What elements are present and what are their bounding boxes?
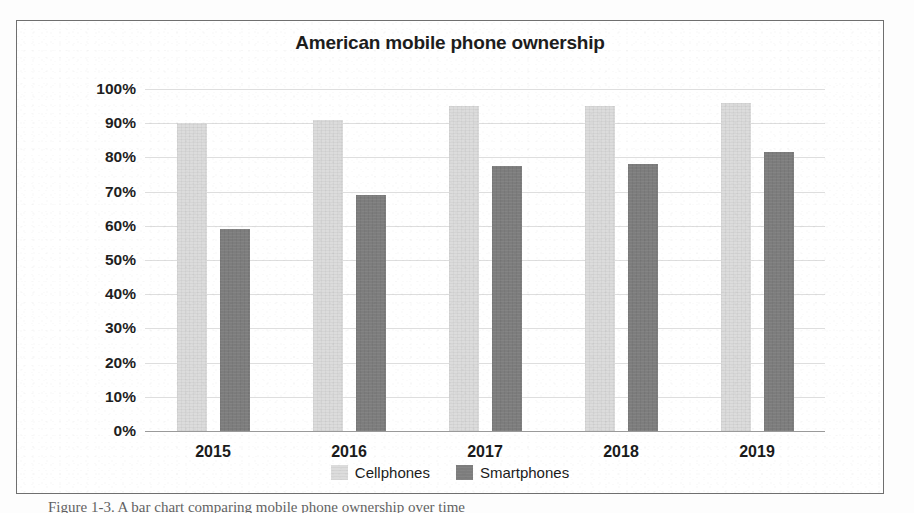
legend-label-smartphones: Smartphones [480, 464, 569, 481]
x-axis-tick-label-2019: 2019 [739, 443, 775, 461]
chart-figure-box: American mobile phone ownership 0%10%20%… [16, 20, 884, 494]
bar-group-2018: 2018 [553, 89, 689, 431]
y-axis-tick-label: 70% [105, 183, 136, 201]
bar-smartphones-2018[interactable] [628, 164, 658, 431]
chart-title: American mobile phone ownership [17, 32, 883, 54]
bar-group-2017: 2017 [417, 89, 553, 431]
bar-cellphones-2015[interactable] [177, 123, 207, 431]
legend-swatch-smartphones-icon [456, 465, 473, 480]
chart-legend: CellphonesSmartphones [17, 464, 883, 481]
y-axis-tick-label: 20% [105, 354, 136, 372]
bar-group-2019: 2019 [689, 89, 825, 431]
y-axis-tick-label: 40% [105, 285, 136, 303]
y-axis-tick-label: 100% [96, 80, 136, 98]
bar-smartphones-2015[interactable] [220, 229, 250, 431]
y-axis-tick-label: 60% [105, 217, 136, 235]
bar-cellphones-2018[interactable] [585, 106, 615, 431]
legend-swatch-cellphones-icon [331, 465, 348, 480]
x-axis-tick-label-2016: 2016 [331, 443, 367, 461]
y-axis-tick-label: 80% [105, 148, 136, 166]
bar-group-2015: 2015 [145, 89, 281, 431]
bar-smartphones-2019[interactable] [764, 152, 794, 431]
bar-group-2016: 2016 [281, 89, 417, 431]
legend-item-cellphones[interactable]: Cellphones [331, 464, 430, 481]
gridline-0pct [145, 431, 825, 432]
y-axis-tick-label: 10% [105, 388, 136, 406]
x-axis-tick-label-2018: 2018 [603, 443, 639, 461]
y-axis-tick-label: 90% [105, 114, 136, 132]
bar-smartphones-2017[interactable] [492, 166, 522, 431]
y-axis-tick-label: 30% [105, 319, 136, 337]
bar-cellphones-2017[interactable] [449, 106, 479, 431]
scanned-page: American mobile phone ownership 0%10%20%… [0, 0, 914, 513]
bar-smartphones-2016[interactable] [356, 195, 386, 431]
legend-label-cellphones: Cellphones [355, 464, 430, 481]
bar-cellphones-2019[interactable] [721, 103, 751, 431]
y-axis-tick-label: 50% [105, 251, 136, 269]
figure-caption-clipped: Figure 1-3. A bar chart comparing mobile… [48, 499, 848, 513]
plot-area: 0%10%20%30%40%50%60%70%80%90%100%2015201… [145, 89, 825, 431]
bar-cellphones-2016[interactable] [313, 120, 343, 431]
y-axis-tick-label: 0% [114, 422, 136, 440]
legend-item-smartphones[interactable]: Smartphones [456, 464, 569, 481]
x-axis-tick-label-2015: 2015 [195, 443, 231, 461]
x-axis-tick-label-2017: 2017 [467, 443, 503, 461]
